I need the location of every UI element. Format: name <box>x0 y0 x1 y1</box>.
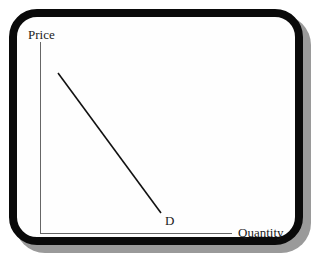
curve-label: D <box>165 214 174 227</box>
demand-curve <box>58 73 161 213</box>
x-axis-label: Quantity <box>238 226 284 239</box>
y-axis-label: Price <box>28 28 55 41</box>
